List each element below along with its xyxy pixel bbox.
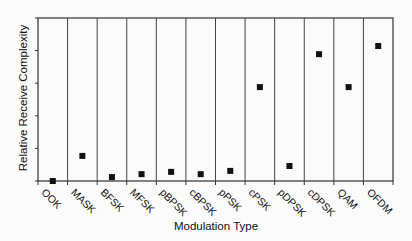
x-tick-label: cPSK [246,186,273,213]
x-tick-label: BFSK [99,186,127,214]
x-tick-label: MFSK [128,186,157,215]
x-tick-label: cDPSK [306,186,338,218]
scatter-plot: OOKMASKBFSKMFSKpBPSKcBPSKpPSKcPSKpDPSKcD… [0,0,412,241]
data-point [139,171,145,177]
x-axis-label: Modulation Type [0,220,412,232]
data-point [316,51,322,57]
x-tick-label: pDPSK [276,186,309,219]
data-point [257,84,263,90]
data-point [50,178,56,184]
chart: OOKMASKBFSKMFSKpBPSKcBPSKpPSKcPSKpDPSKcD… [0,0,412,241]
x-tick-label: pBPSK [158,186,190,218]
y-axis-label: Relative Receive Complexity [17,18,29,178]
data-point [198,171,204,177]
data-point [79,153,85,159]
data-point [286,163,292,169]
x-tick-label: MASK [69,186,99,216]
x-tick-label: cBPSK [187,186,219,218]
x-tick-label: OOK [39,186,64,211]
x-tick-label: OFDM [365,186,395,216]
data-point [346,84,352,90]
data-point [168,169,174,175]
x-tick-label: pPSK [217,186,244,213]
data-point [375,43,381,49]
x-tick-label: QAM [335,186,360,211]
data-point [109,174,115,180]
data-point [227,168,233,174]
